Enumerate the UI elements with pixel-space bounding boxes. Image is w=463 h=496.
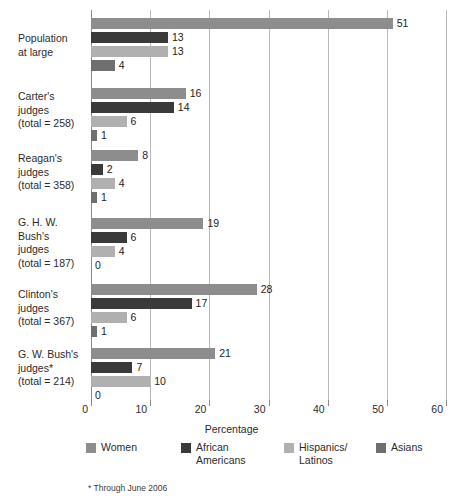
bar-row[interactable]: 4 (91, 178, 446, 189)
legend-swatch-icon (86, 443, 96, 453)
category-label-line: Carter's judges (18, 90, 88, 117)
bar-row[interactable]: 6 (91, 312, 446, 323)
legend-label: Women (101, 441, 137, 454)
bar-african[interactable] (91, 32, 168, 43)
category-label-line: Reagan's judges (18, 152, 88, 179)
bar-hispanic[interactable] (91, 312, 127, 323)
bar-row[interactable]: 16 (91, 88, 446, 99)
bar-row[interactable]: 17 (91, 298, 446, 309)
bar-asian[interactable] (91, 326, 97, 337)
legend-item-hispanic[interactable]: Hispanics/ Latinos (284, 441, 347, 467)
bar-women[interactable] (91, 150, 138, 161)
bar-row[interactable]: 0 (91, 260, 446, 271)
gridline-60 (446, 10, 447, 400)
bar-value-label: 1 (101, 190, 107, 204)
bar-value-label: 8 (142, 148, 148, 162)
category-label-line: G. H. W. Bush's (18, 216, 88, 243)
bar-african[interactable] (91, 298, 192, 309)
x-tick-label-30: 30 (254, 402, 269, 416)
bar-hispanic[interactable] (91, 376, 150, 387)
bar-african[interactable] (91, 232, 127, 243)
bar-asian[interactable] (91, 192, 97, 203)
category-label: G. W. Bush'sjudges*(total = 214) (18, 348, 88, 389)
bar-hispanic[interactable] (91, 116, 127, 127)
chart-legend: WomenAfrican AmericansHispanics/ Latinos… (86, 441, 458, 477)
legend-label: Asians (391, 441, 423, 454)
bar-value-label: 14 (178, 100, 190, 114)
bar-value-label: 6 (131, 310, 137, 324)
bar-row[interactable]: 1 (91, 130, 446, 141)
bar-african[interactable] (91, 164, 103, 175)
bar-value-label: 17 (196, 296, 208, 310)
bar-value-label: 21 (219, 346, 231, 360)
x-tick-label-60: 60 (431, 402, 446, 416)
bar-group: 281761 (91, 284, 446, 340)
bar-row[interactable]: 14 (91, 102, 446, 113)
bar-group: 19640 (91, 218, 446, 274)
bar-african[interactable] (91, 362, 132, 373)
bar-value-label: 1 (101, 324, 107, 338)
legend-swatch-icon (284, 443, 294, 453)
bar-value-label: 4 (119, 176, 125, 190)
chart-footnote: * Through June 2006 (88, 483, 167, 494)
bar-value-label: 4 (119, 244, 125, 258)
category-label-line: G. W. Bush's (18, 348, 88, 362)
bar-row[interactable]: 6 (91, 232, 446, 243)
bar-value-label: 2 (107, 162, 113, 176)
bar-group: 8241 (91, 150, 446, 206)
bar-value-label: 51 (397, 16, 409, 30)
legend-item-women[interactable]: Women (86, 441, 137, 454)
x-tick-label-10: 10 (135, 402, 150, 416)
bar-women[interactable] (91, 348, 215, 359)
category-label-line: (total = 258) (18, 117, 88, 131)
bar-row[interactable]: 7 (91, 362, 446, 373)
bar-row[interactable]: 51 (91, 18, 446, 29)
bar-hispanic[interactable] (91, 178, 115, 189)
legend-item-asian[interactable]: Asians (376, 441, 423, 454)
bar-women[interactable] (91, 284, 257, 295)
category-label-line: (total = 214) (18, 375, 88, 389)
bar-row[interactable]: 13 (91, 46, 446, 57)
category-label-line: (total = 358) (18, 179, 88, 193)
bar-hispanic[interactable] (91, 246, 115, 257)
bar-value-label: 28 (261, 282, 273, 296)
bar-women[interactable] (91, 18, 393, 29)
bar-row[interactable]: 6 (91, 116, 446, 127)
category-label: Populationat large (18, 32, 88, 59)
bar-row[interactable]: 4 (91, 60, 446, 71)
bar-asian[interactable] (91, 60, 115, 71)
bar-row[interactable]: 19 (91, 218, 446, 229)
bar-asian[interactable] (91, 130, 97, 141)
bar-women[interactable] (91, 218, 203, 229)
x-tick-label-20: 20 (195, 402, 210, 416)
bar-row[interactable]: 1 (91, 192, 446, 203)
category-label-line: (total = 187) (18, 257, 88, 271)
bar-hispanic[interactable] (91, 46, 168, 57)
bar-row[interactable]: 8 (91, 150, 446, 161)
bar-value-label: 6 (131, 114, 137, 128)
legend-swatch-icon (376, 443, 386, 453)
category-label-line: at large (18, 46, 88, 60)
bar-row[interactable]: 13 (91, 32, 446, 43)
category-label-line: judges (18, 243, 88, 257)
category-label: Clinton's judges(total = 367) (18, 288, 88, 329)
legend-swatch-icon (181, 443, 191, 453)
category-label-line: (total = 367) (18, 315, 88, 329)
legend-item-african[interactable]: African Americans (181, 441, 246, 467)
bar-value-label: 10 (154, 374, 166, 388)
category-label-line: judges* (18, 362, 88, 376)
bar-row[interactable]: 4 (91, 246, 446, 257)
bar-group: 5113134 (91, 18, 446, 74)
bar-row[interactable]: 2 (91, 164, 446, 175)
category-label: Carter's judges(total = 258) (18, 90, 88, 131)
bar-row[interactable]: 28 (91, 284, 446, 295)
bar-row[interactable]: 21 (91, 348, 446, 359)
bar-row[interactable]: 1 (91, 326, 446, 337)
bar-value-label: 13 (172, 44, 184, 58)
chart-figure: 5113134161461824119640281761217100 Popul… (0, 0, 463, 496)
bar-row[interactable]: 10 (91, 376, 446, 387)
bar-women[interactable] (91, 88, 186, 99)
bar-african[interactable] (91, 102, 174, 113)
bar-value-label: 0 (95, 258, 101, 272)
category-label: Reagan's judges(total = 358) (18, 152, 88, 193)
